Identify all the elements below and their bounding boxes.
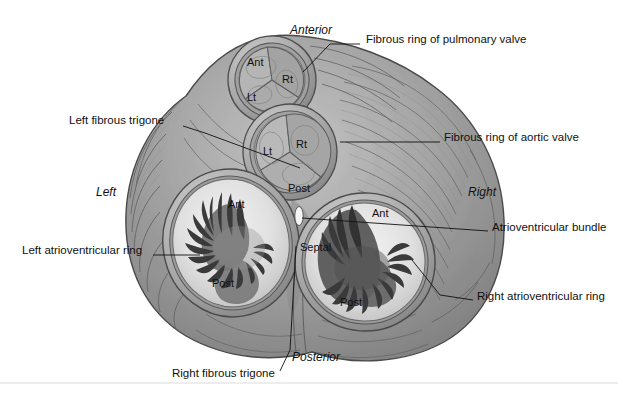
cusp-label-aortic-right: Rt xyxy=(296,139,307,150)
cusp-label-pulmonary-right: Rt xyxy=(282,74,293,85)
orientation-label-posterior: Posterior xyxy=(292,351,340,363)
callout-fibrous-ring-aortic-valve: Fibrous ring of aortic valve xyxy=(444,132,579,144)
cusp-label-tricuspid-anterior: Ant xyxy=(372,208,389,219)
callout-right-fibrous-trigone: Right fibrous trigone xyxy=(172,368,275,380)
anatomical-figure: Anterior Posterior Left Right Fibrous ri… xyxy=(0,0,618,397)
callout-fibrous-ring-pulmonary-valve: Fibrous ring of pulmonary valve xyxy=(366,34,526,46)
callout-left-fibrous-trigone: Left fibrous trigone xyxy=(69,115,164,127)
heart-fibrous-skeleton-illustration xyxy=(0,0,618,397)
atrioventricular-bundle-marker xyxy=(295,207,303,226)
cusp-label-pulmonary-anterior: Ant xyxy=(247,57,264,68)
orientation-label-left: Left xyxy=(96,186,116,198)
cusp-label-tricuspid-septal: Septal xyxy=(300,242,331,253)
cusp-label-pulmonary-left: Lt xyxy=(247,92,256,103)
cusp-label-mitral-posterior: Post xyxy=(212,278,234,289)
cusp-label-mitral-anterior: Ant xyxy=(228,199,245,210)
cusp-label-aortic-left: Lt xyxy=(263,146,272,157)
orientation-label-right: Right xyxy=(468,186,496,198)
orientation-label-anterior: Anterior xyxy=(290,24,332,36)
callout-left-atrioventricular-ring: Left atrioventricular ring xyxy=(22,245,142,257)
cusp-label-aortic-posterior: Post xyxy=(288,183,310,194)
callout-atrioventricular-bundle: Atrioventricular bundle xyxy=(492,222,606,234)
cusp-label-tricuspid-posterior: Post xyxy=(340,297,362,308)
callout-right-atrioventricular-ring: Right atrioventricular ring xyxy=(477,291,605,303)
